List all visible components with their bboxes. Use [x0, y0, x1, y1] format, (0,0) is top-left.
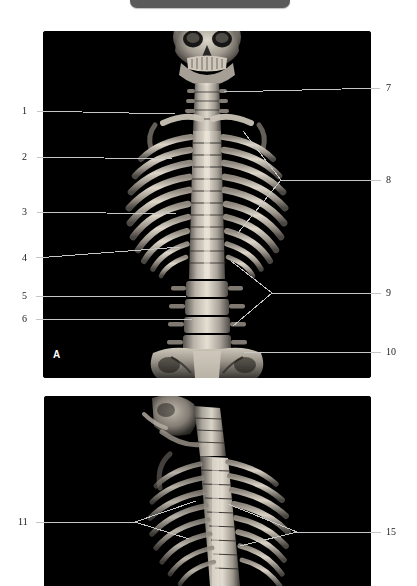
panel-a-letter: A [53, 349, 61, 360]
ct-panel-a: A [43, 31, 371, 378]
label-9: 9 [386, 288, 391, 298]
label-1: 1 [22, 106, 27, 116]
anatomy-figure: A [0, 0, 417, 586]
label-5: 5 [22, 291, 27, 301]
label-2: 2 [22, 152, 27, 162]
label-7: 7 [386, 83, 391, 93]
ct-image-oblique-view [44, 396, 371, 586]
ct-image-anterior-view [43, 31, 371, 378]
label-6: 6 [22, 314, 27, 324]
truncated-toolbar-bar[interactable] [130, 0, 290, 8]
label-11: 11 [18, 517, 28, 527]
ct-panel-b [44, 396, 371, 586]
label-10: 10 [386, 347, 396, 357]
label-8: 8 [386, 175, 391, 185]
label-4: 4 [22, 253, 27, 263]
label-15: 15 [386, 527, 396, 537]
label-3: 3 [22, 207, 27, 217]
